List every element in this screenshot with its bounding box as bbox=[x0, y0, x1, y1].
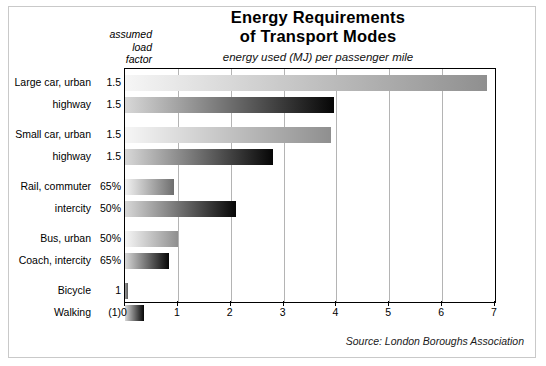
category-label-name: Coach, intercity bbox=[19, 254, 91, 266]
x-tick-label-3: 3 bbox=[273, 306, 293, 318]
load-header-line-1: assumed bbox=[36, 28, 152, 41]
category-load-factor: 1.5 bbox=[95, 150, 121, 162]
bar bbox=[125, 75, 487, 91]
x-tick-label-6: 6 bbox=[431, 306, 451, 318]
chart-title-line-2: of Transport Modes bbox=[168, 27, 468, 46]
chart-title: Energy Requirements of Transport Modes bbox=[168, 8, 468, 46]
category-label-row: highway1.5 bbox=[0, 150, 121, 163]
category-load-factor: 1.5 bbox=[95, 98, 121, 110]
bar bbox=[125, 149, 273, 165]
bar bbox=[125, 201, 236, 217]
category-label-row: Rail, commuter65% bbox=[0, 180, 121, 193]
x-tick-label-4: 4 bbox=[325, 306, 345, 318]
load-header-line-2: load bbox=[36, 41, 152, 54]
category-load-factor: 1.5 bbox=[95, 128, 121, 140]
bar bbox=[125, 179, 174, 195]
category-label-name: Rail, commuter bbox=[20, 180, 91, 192]
bar bbox=[125, 97, 334, 113]
gridline-6 bbox=[442, 69, 443, 302]
category-label-row: intercity50% bbox=[0, 202, 121, 215]
category-axis-labels: Large car, urban1.5highway1.5Small car, … bbox=[0, 69, 121, 301]
bar bbox=[125, 231, 178, 247]
chart-figure: Energy Requirements of Transport Modes e… bbox=[0, 0, 546, 366]
chart-title-line-1: Energy Requirements bbox=[168, 8, 468, 27]
category-load-factor: 65% bbox=[95, 254, 121, 266]
category-load-factor: 50% bbox=[95, 232, 121, 244]
x-tick-label-2: 2 bbox=[220, 306, 240, 318]
bar bbox=[125, 253, 169, 269]
gridline-5 bbox=[389, 69, 390, 302]
x-tick-label-0: 0 bbox=[114, 306, 134, 318]
category-label-name: Bicycle bbox=[58, 284, 91, 296]
chart-subtitle: energy used (MJ) per passenger mile bbox=[168, 51, 468, 63]
category-label-row: Small car, urban1.5 bbox=[0, 128, 121, 141]
category-label-name: Walking bbox=[54, 306, 91, 318]
category-label-row: Bicycle1 bbox=[0, 284, 121, 297]
category-label-row: Coach, intercity65% bbox=[0, 254, 121, 267]
source-note: Source: London Boroughs Association bbox=[346, 335, 524, 347]
category-label-name: Large car, urban bbox=[15, 76, 91, 88]
x-tick-label-1: 1 bbox=[167, 306, 187, 318]
category-load-factor: 1.5 bbox=[95, 76, 121, 88]
category-label-name: highway bbox=[52, 98, 91, 110]
category-load-factor: 1 bbox=[95, 284, 121, 296]
gridline-4 bbox=[336, 69, 337, 302]
x-tick-label-5: 5 bbox=[378, 306, 398, 318]
bar bbox=[125, 127, 331, 143]
category-label-row: highway1.5 bbox=[0, 98, 121, 111]
category-label-name: highway bbox=[52, 150, 91, 162]
x-axis-tick-labels: 01234567 bbox=[124, 306, 496, 320]
load-header-line-3: factor bbox=[36, 53, 152, 66]
category-label-row: Large car, urban1.5 bbox=[0, 76, 121, 89]
plot-inner bbox=[125, 69, 495, 302]
category-label-name: intercity bbox=[55, 202, 91, 214]
category-label-row: Walking(1) bbox=[0, 306, 121, 319]
category-load-factor: 50% bbox=[95, 202, 121, 214]
plot-area bbox=[124, 68, 496, 303]
assumed-load-factor-header: assumed load factor bbox=[36, 28, 152, 66]
category-label-row: Bus, urban50% bbox=[0, 232, 121, 245]
category-label-name: Bus, urban bbox=[40, 232, 91, 244]
category-label-name: Small car, urban bbox=[15, 128, 91, 140]
category-load-factor: 65% bbox=[95, 180, 121, 192]
x-tick-label-7: 7 bbox=[484, 306, 504, 318]
bar bbox=[125, 283, 128, 299]
